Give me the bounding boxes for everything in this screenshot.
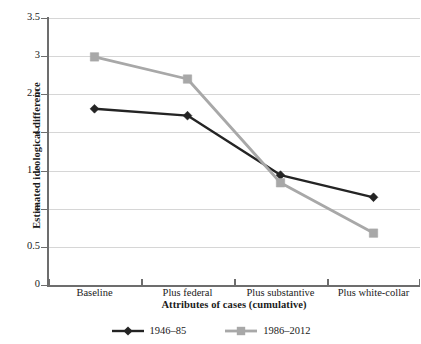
x-tick-label-baseline: Baseline (48, 287, 141, 299)
x-tick-mark (419, 279, 421, 286)
y-tick-label: 0.5 (6, 241, 40, 252)
y-tick-mark (41, 94, 47, 95)
gridline-3 (48, 56, 420, 57)
y-tick-mark (41, 56, 47, 57)
x-tick-label-plus-federal: Plus federal (141, 287, 234, 299)
y-tick-label: 1.5 (6, 165, 40, 176)
y-tick-label: 1 (6, 203, 40, 214)
x-tick-label-plus-substantive: Plus substantive (234, 287, 327, 299)
gridline-2.5 (48, 94, 420, 95)
y-tick-mark (41, 171, 47, 172)
gridline-0.5 (48, 247, 420, 248)
gridline-2 (48, 132, 420, 133)
chart-legend: 1946–851986–2012 (0, 320, 421, 342)
x-tick-mark (141, 279, 143, 286)
y-tick-mark (41, 209, 47, 210)
legend-entry-1[interactable]: 1946–85 (111, 325, 187, 337)
y-tick-label: 3 (6, 50, 40, 61)
x-tick-label-plus-white-collar: Plus white-collar (327, 287, 420, 299)
y-tick-mark (41, 132, 47, 133)
x-tick-mark (48, 279, 50, 286)
y-tick-label: 2.5 (6, 88, 40, 99)
x-tick-mark (234, 279, 236, 286)
gridline-3.5 (48, 18, 420, 19)
x-axis-title: Attributes of cases (cumulative) (48, 299, 420, 310)
plot-area (48, 18, 420, 285)
y-axis-tick-labels: 00.511.522.533.5 (0, 0, 40, 344)
x-tick-mark (327, 279, 329, 286)
y-tick-label: 2 (6, 126, 40, 137)
y-axis-line (47, 17, 49, 286)
y-tick-mark (41, 18, 47, 19)
legend-label: 1946–85 (150, 326, 187, 337)
legend-label: 1986–2012 (263, 326, 310, 337)
legend-entry-2[interactable]: 1986–2012 (224, 325, 310, 337)
y-tick-label: 0 (6, 279, 40, 290)
y-tick-mark (41, 247, 47, 248)
diamond-marker-icon (111, 325, 145, 337)
y-tick-label: 3.5 (6, 12, 40, 23)
gridline-1 (48, 209, 420, 210)
y-tick-mark (41, 285, 47, 286)
gridline-1.5 (48, 171, 420, 172)
square-marker-icon (224, 325, 258, 337)
chart-figure: Estimated ideological difference 00.511.… (0, 0, 421, 344)
